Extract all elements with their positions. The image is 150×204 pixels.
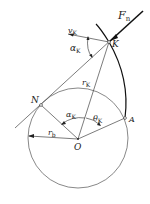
base-radius-arrowhead bbox=[28, 134, 34, 138]
label-theta: θK bbox=[93, 114, 103, 124]
label-point-o: O bbox=[74, 142, 82, 152]
radius-n-line bbox=[41, 105, 78, 139]
involute-diagram: Fn vK K αK rK N αK θK A rb O bbox=[0, 0, 150, 204]
label-point-k: K bbox=[111, 39, 120, 49]
radius-k-line bbox=[78, 42, 109, 139]
point-n-marker bbox=[40, 104, 43, 107]
label-point-n: N bbox=[30, 95, 40, 105]
label-radius-k: rK bbox=[82, 78, 91, 88]
point-k-marker bbox=[108, 41, 111, 44]
label-velocity: vK bbox=[68, 26, 78, 36]
involute-curve bbox=[96, 24, 126, 118]
label-force: Fn bbox=[117, 9, 131, 23]
point-a-marker bbox=[124, 117, 127, 120]
label-alpha-center: αK bbox=[66, 110, 76, 120]
alpha-k-arrow-bottom bbox=[89, 54, 93, 58]
point-o-marker bbox=[77, 138, 79, 140]
label-point-a: A bbox=[128, 115, 135, 124]
label-alpha-k-top: αK bbox=[70, 43, 81, 54]
label-radius-b: rb bbox=[48, 128, 56, 138]
